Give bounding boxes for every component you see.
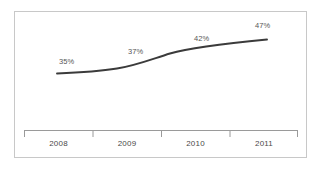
x-tick-label-2010: 2010 (161, 139, 230, 148)
chart-border (14, 11, 307, 158)
data-label-2010: 42% (194, 34, 209, 43)
data-label-2009: 37% (128, 47, 143, 56)
data-label-2011: 47% (255, 21, 270, 30)
chart-figure: 35% 37% 42% 47% 2008 2009 2010 2011 (0, 0, 321, 169)
x-tick-label-2011: 2011 (230, 139, 298, 148)
data-label-2008: 35% (59, 57, 74, 66)
x-tick-label-2008: 2008 (24, 139, 93, 148)
x-tick-label-2009: 2009 (93, 139, 161, 148)
